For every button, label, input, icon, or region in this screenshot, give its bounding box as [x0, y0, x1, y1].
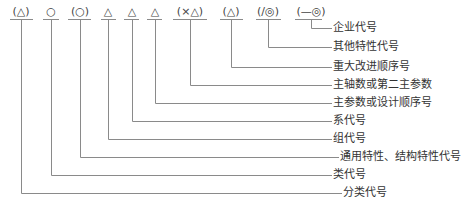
leader-line — [232, 20, 333, 68]
code-label: 企业代号 — [333, 22, 377, 34]
code-symbol: (/◎) — [257, 6, 279, 18]
lathe-model-code-diagram: (△)○(○)△△△(×△)(△)(/◎)(—◎) 企业代号其他特性代号重大改进… — [0, 0, 471, 205]
code-label: 分类代号 — [343, 187, 387, 199]
code-label: 主轴数或第二主参数 — [333, 79, 432, 91]
code-label: 通用特性、结构特性代号 — [340, 151, 461, 163]
code-label: 其他特性代号 — [333, 41, 399, 53]
code-label: 组代号 — [333, 133, 366, 145]
code-symbol: (△) — [12, 6, 29, 18]
code-symbol: △ — [151, 6, 159, 18]
code-symbol: (○) — [71, 6, 89, 18]
code-symbol: ○ — [46, 6, 56, 18]
code-symbol: (×△) — [177, 6, 203, 18]
code-label: 重大改进顺序号 — [333, 61, 410, 73]
code-label: 系代号 — [333, 115, 366, 127]
leader-line — [52, 20, 333, 176]
code-symbol: △ — [128, 6, 136, 18]
leader-line — [156, 20, 333, 104]
code-label: 主参数或设计顺序号 — [333, 97, 432, 109]
leader-line — [269, 20, 333, 48]
code-symbol: (—◎) — [296, 6, 325, 18]
leader-line — [22, 20, 343, 194]
leader-line — [312, 20, 333, 29]
leader-line — [133, 20, 333, 122]
leader-line — [81, 20, 340, 158]
code-symbol: (△) — [222, 6, 239, 18]
code-label: 类代号 — [333, 169, 366, 181]
leader-line — [191, 20, 333, 86]
code-symbol: △ — [104, 6, 112, 18]
